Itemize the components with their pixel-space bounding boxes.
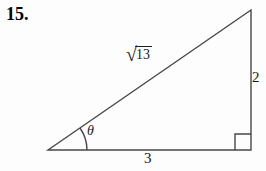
textbook-problem-figure: 15. √13 θ 2 3 xyxy=(0,0,266,171)
right-angle-marker xyxy=(235,134,251,150)
base-side-label: 3 xyxy=(144,151,152,166)
hypotenuse-label: √13 xyxy=(126,44,152,64)
triangle-outline xyxy=(48,10,251,150)
angle-theta-label: θ xyxy=(87,124,94,138)
vertical-side-label: 2 xyxy=(252,70,260,85)
radicand: 13 xyxy=(135,46,152,62)
angle-arc xyxy=(80,128,87,150)
right-triangle-figure xyxy=(0,0,266,171)
